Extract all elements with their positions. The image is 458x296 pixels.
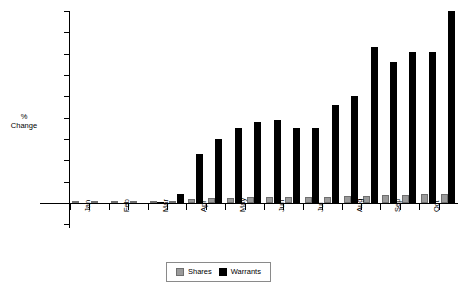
bar-warrants[interactable] <box>448 11 455 203</box>
bar-group <box>89 11 108 203</box>
bar-group <box>206 11 225 203</box>
bar-group <box>148 11 167 203</box>
plot-area <box>70 11 458 203</box>
bar-warrants[interactable] <box>293 128 300 203</box>
legend-label-shares: Shares <box>188 268 212 276</box>
x-tick-mark <box>342 203 343 210</box>
x-tick-mark <box>380 203 381 210</box>
x-tick-mark <box>109 203 110 210</box>
x-tick-label-may: May <box>239 198 247 212</box>
x-tick-mark <box>264 203 265 210</box>
y-axis-ticks: 450040003500300025002000150010005000-500 <box>0 0 80 296</box>
bar-warrants[interactable] <box>254 122 261 203</box>
x-tick-label-apr: Apr <box>200 200 208 212</box>
bar-group <box>264 11 283 203</box>
bar-group <box>361 11 380 203</box>
x-tick-label-sep: Sep <box>394 199 402 212</box>
bar-warrants[interactable] <box>409 52 416 203</box>
bar-warrants[interactable] <box>235 128 242 203</box>
bar-shares[interactable] <box>382 195 389 203</box>
chart-legend: Shares Warrants <box>166 262 271 282</box>
bar-warrants[interactable] <box>351 96 358 203</box>
bar-warrants[interactable] <box>177 194 184 203</box>
legend-label-warrants: Warrants <box>231 268 261 276</box>
warrants-swatch-icon <box>219 268 227 276</box>
bar-warrants[interactable] <box>332 105 339 203</box>
bar-group <box>342 11 361 203</box>
bar-warrants[interactable] <box>274 120 281 203</box>
bar-group <box>128 11 147 203</box>
bar-warrants[interactable] <box>215 139 222 203</box>
bar-group <box>322 11 341 203</box>
x-tick-label-mar: Mar <box>162 199 170 212</box>
bar-shares[interactable] <box>344 196 351 203</box>
bar-shares[interactable] <box>421 194 428 203</box>
bar-group <box>70 11 89 203</box>
shares-swatch-icon <box>176 268 184 276</box>
bar-group <box>283 11 302 203</box>
x-tick-label-jun: Jun <box>278 200 286 212</box>
x-tick-label-aug: Aug <box>356 199 364 212</box>
x-tick-mark <box>148 203 149 210</box>
x-tick-mark <box>303 203 304 210</box>
bar-group <box>186 11 205 203</box>
bar-shares[interactable] <box>441 194 448 203</box>
bar-group <box>400 11 419 203</box>
x-tick-label-oct: Oct <box>433 200 441 212</box>
bar-group <box>109 11 128 203</box>
bar-group <box>225 11 244 203</box>
x-tick-mark <box>225 203 226 210</box>
x-axis-ticks: JanFebMarAprMayJunJulAugSepOct <box>70 203 458 249</box>
x-tick-mark <box>70 203 71 210</box>
bar-group <box>167 11 186 203</box>
bar-group <box>303 11 322 203</box>
x-tick-label-jul: Jul <box>317 202 325 212</box>
x-tick-label-jan: Jan <box>84 200 92 212</box>
bar-warrants[interactable] <box>312 128 319 203</box>
bar-group <box>380 11 399 203</box>
bar-chart: % Change 4500400035003000250020001500100… <box>0 0 458 296</box>
x-tick-label-feb: Feb <box>123 199 131 212</box>
legend-entry-warrants[interactable]: Warrants <box>219 268 261 276</box>
x-tick-mark <box>186 203 187 210</box>
bar-shares[interactable] <box>402 195 409 203</box>
legend-entry-shares[interactable]: Shares <box>176 268 212 276</box>
bar-group <box>245 11 264 203</box>
bar-warrants[interactable] <box>371 47 378 203</box>
bar-group <box>419 11 438 203</box>
bar-warrants[interactable] <box>429 52 436 203</box>
bar-warrants[interactable] <box>196 154 203 203</box>
x-tick-mark <box>419 203 420 210</box>
bar-warrants[interactable] <box>390 62 397 203</box>
bar-group <box>439 11 458 203</box>
bar-shares[interactable] <box>363 196 370 203</box>
